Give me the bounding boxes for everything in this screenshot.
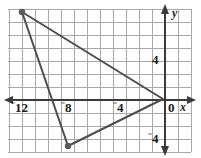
y-axis-name: y: [172, 7, 177, 19]
x-tick-digits: 4: [117, 100, 124, 115]
x-tick-label-neg8: ⁻8: [61, 101, 72, 114]
x-tick-digits: 8: [65, 100, 72, 115]
x-tick-label-neg12: ⁻12: [11, 101, 28, 114]
x-axis-name: x: [180, 101, 186, 113]
y-tick-label-neg4: ⁻4: [148, 132, 159, 145]
y-tick-digits: 4: [152, 131, 159, 146]
coordinate-plane-figure: ⁻12 ⁻8 ⁻4 0 4 ⁻4 x y: [0, 0, 201, 158]
y-tick-label-4: 4: [152, 53, 159, 66]
y-tick-digits: 4: [152, 52, 159, 67]
origin-label: 0: [168, 101, 175, 114]
x-tick-digits: 12: [15, 100, 28, 115]
x-tick-label-neg4: ⁻4: [113, 101, 124, 114]
y-axis: [161, 4, 169, 156]
vertex-marker-top-left: [19, 9, 25, 15]
graph-canvas: [0, 0, 201, 158]
vertex-marker-bottom: [65, 143, 71, 149]
